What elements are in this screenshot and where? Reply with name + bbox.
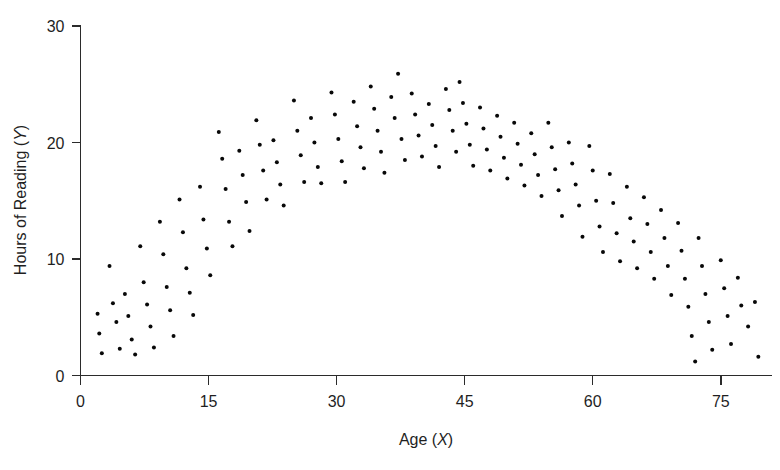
data-point [343, 180, 347, 184]
data-point [198, 185, 202, 189]
data-point [659, 208, 663, 212]
data-point [726, 314, 730, 318]
data-point [690, 334, 694, 338]
data-point [261, 168, 265, 172]
data-point [278, 182, 282, 186]
data-point [437, 165, 441, 169]
y-axis-group: 0102030 Hours of Reading (Y) [12, 18, 81, 385]
x-axis-title-close: ) [448, 431, 453, 448]
data-point [161, 252, 165, 256]
y-axis-ticks [72, 26, 81, 376]
data-point [292, 99, 296, 103]
data-point [454, 150, 458, 154]
data-point [697, 236, 701, 240]
data-point [181, 230, 185, 234]
data-point [577, 203, 581, 207]
data-point [533, 152, 537, 156]
data-point [145, 302, 149, 306]
data-point [536, 173, 540, 177]
data-point [369, 85, 373, 89]
data-point [184, 266, 188, 270]
data-points-layer [96, 72, 761, 364]
data-point [417, 134, 421, 138]
data-point [410, 92, 414, 96]
data-point [413, 113, 417, 117]
data-point [461, 101, 465, 105]
data-point [557, 188, 561, 192]
data-point [319, 181, 323, 185]
data-point [111, 301, 115, 305]
data-point [632, 240, 636, 244]
data-point [669, 293, 673, 297]
data-point [372, 107, 376, 111]
data-point [379, 150, 383, 154]
data-point [719, 258, 723, 262]
data-point [133, 353, 137, 357]
data-point [427, 102, 431, 106]
data-point [753, 300, 757, 304]
data-point [580, 235, 584, 239]
data-point [471, 164, 475, 168]
data-point [529, 131, 533, 135]
data-point [271, 138, 275, 142]
data-point [615, 231, 619, 235]
data-point [591, 168, 595, 172]
data-point [352, 100, 356, 104]
data-point [205, 247, 209, 251]
scatter-plot-figure: 0102030 Hours of Reading (Y) 01530456075… [0, 0, 780, 470]
y-tick-label: 10 [47, 251, 65, 268]
data-point [172, 334, 176, 338]
data-point [312, 141, 316, 145]
data-point [676, 221, 680, 225]
data-point [227, 220, 231, 224]
data-point [142, 280, 146, 284]
data-point [710, 348, 714, 352]
data-point [468, 143, 472, 147]
x-axis-title-main: Age ( [399, 431, 438, 448]
data-point [703, 292, 707, 296]
data-point [649, 250, 653, 254]
data-point [635, 266, 639, 270]
data-point [519, 163, 523, 167]
data-point [567, 141, 571, 145]
data-point [570, 161, 574, 165]
data-point [488, 168, 492, 172]
data-point [601, 250, 605, 254]
data-point [611, 201, 615, 205]
data-point [553, 167, 557, 171]
data-point [399, 137, 403, 141]
data-point [355, 124, 359, 128]
data-point [403, 158, 407, 162]
data-point [188, 291, 192, 295]
data-point [275, 160, 279, 164]
data-point [756, 355, 760, 359]
data-point [258, 143, 262, 147]
data-point [540, 194, 544, 198]
data-point [96, 312, 100, 316]
data-point [201, 217, 205, 221]
data-point [389, 95, 393, 99]
x-tick-label: 0 [76, 393, 85, 410]
data-point [451, 129, 455, 133]
data-point [241, 173, 245, 177]
data-point [100, 351, 104, 355]
data-point [746, 325, 750, 329]
data-point [495, 114, 499, 118]
data-point [680, 249, 684, 253]
data-point [302, 180, 306, 184]
data-point [178, 198, 182, 202]
y-axis-title: Hours of Reading (Y) [12, 125, 29, 275]
data-point [333, 113, 337, 117]
data-point [618, 259, 622, 263]
y-axis-tick-labels: 0102030 [47, 18, 65, 385]
data-point [220, 157, 224, 161]
data-point [329, 90, 333, 94]
data-point [244, 200, 248, 204]
data-point [481, 127, 485, 131]
x-axis-title: Age (X) [399, 431, 453, 448]
data-point [126, 314, 130, 318]
data-point [299, 153, 303, 157]
data-point [430, 123, 434, 127]
data-point [550, 145, 554, 149]
data-point [587, 144, 591, 148]
